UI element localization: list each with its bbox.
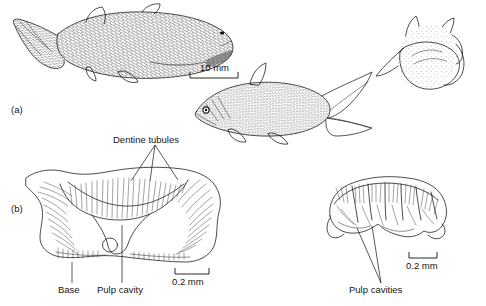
denticle-section-left xyxy=(26,167,220,262)
scale-bar-0.2mm-left-label: 0.2 mm xyxy=(172,277,204,287)
scale-bar-0.2mm-right-label: 0.2 mm xyxy=(406,261,438,271)
dentine-tubules-label: Dentine tubules xyxy=(113,135,179,145)
fossil-specimen-3d xyxy=(376,16,468,98)
figure-canvas: (a) (b) 10 mm Dentine tubules Base Pulp … xyxy=(0,0,486,306)
scale-bar-0.2mm-right xyxy=(409,252,437,258)
panel-label-a: (a) xyxy=(11,104,23,115)
panel-label-b: (b) xyxy=(11,203,23,214)
fish-head-and-tail xyxy=(192,63,372,144)
denticle-section-right xyxy=(327,177,447,239)
base-label: Base xyxy=(58,285,80,295)
scale-bar-0.2mm-left xyxy=(175,268,209,274)
pulp-cavities-leaders xyxy=(357,226,381,283)
scale-bar-10mm-label: 10 mm xyxy=(200,63,229,73)
whole-fish-lateral xyxy=(5,4,245,86)
pulp-cavities-label: Pulp cavities xyxy=(349,285,402,295)
pulp-cavity-label: Pulp cavity xyxy=(97,285,143,295)
dentine-tubules-leaders xyxy=(131,145,178,181)
